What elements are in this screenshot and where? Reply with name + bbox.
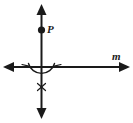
line-m-label: m [112, 51, 121, 62]
arc-tick-left [22, 65, 29, 67]
arc-tick-right [54, 65, 61, 67]
perpendicular-line-arrowhead-top [37, 4, 47, 15]
perpendicular-line-arrowhead-bottom [37, 108, 47, 119]
line-m-arrowhead-left [3, 62, 14, 72]
point-P-label: P [47, 24, 54, 35]
point-P-dot [38, 26, 45, 33]
arc-tick-left-path [22, 65, 29, 67]
line-m-arrowhead-right [119, 62, 130, 72]
arc-tick-right-path [54, 65, 61, 67]
line-m [3, 62, 130, 72]
perpendicular-line [37, 4, 47, 119]
geometry-figure: P m [0, 0, 133, 123]
